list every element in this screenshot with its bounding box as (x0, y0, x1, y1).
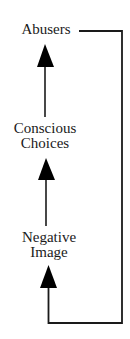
feedback-cycle-diagram: Abusers Conscious Choices Negative Image (0, 0, 130, 339)
node-conscious-choices: Conscious Choices (14, 121, 77, 151)
node-label: Abusers (21, 22, 70, 37)
connectors (0, 0, 130, 339)
node-label-line-2: Image (22, 245, 76, 260)
arrowhead-up-icon (37, 44, 54, 67)
arrowhead-up-icon (40, 265, 57, 288)
node-abusers: Abusers (21, 22, 70, 37)
node-negative-image: Negative Image (22, 230, 76, 260)
node-label-line-1: Conscious (14, 121, 77, 136)
arrowhead-up-icon (38, 158, 55, 180)
arrow-negative-to-conscious (38, 158, 55, 226)
node-label-line-1: Negative (22, 230, 76, 245)
node-label-line-2: Choices (14, 136, 77, 151)
arrow-conscious-to-abusers (37, 44, 54, 117)
